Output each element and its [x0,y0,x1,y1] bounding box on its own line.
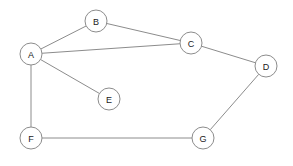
graph-edge-a-c [42,44,180,54]
graph-node-c[interactable]: C [180,32,202,54]
graph-node-f[interactable]: F [20,127,42,149]
graph-node-g[interactable]: G [192,127,214,149]
graph-edge-a-e [41,60,100,94]
graph-node-e[interactable]: E [98,88,120,110]
graph-edge-d-g [210,74,259,129]
graph-edge-b-c [107,23,181,40]
graph-node-circle-a[interactable] [20,43,42,65]
graph-node-b[interactable]: B [85,10,107,32]
graph-node-a[interactable]: A [20,43,42,65]
graph-node-circle-d[interactable] [255,55,277,77]
graph-edge-a-b [41,26,86,49]
edge-layer [31,23,259,138]
graph-node-circle-e[interactable] [98,88,120,110]
node-layer: ABCDEFG [20,10,277,149]
graph-node-circle-b[interactable] [85,10,107,32]
graph-node-d[interactable]: D [255,55,277,77]
graph-node-circle-g[interactable] [192,127,214,149]
graph-node-circle-c[interactable] [180,32,202,54]
graph-diagram: ABCDEFG [0,0,293,166]
graph-edge-c-d [202,46,256,63]
graph-node-circle-f[interactable] [20,127,42,149]
